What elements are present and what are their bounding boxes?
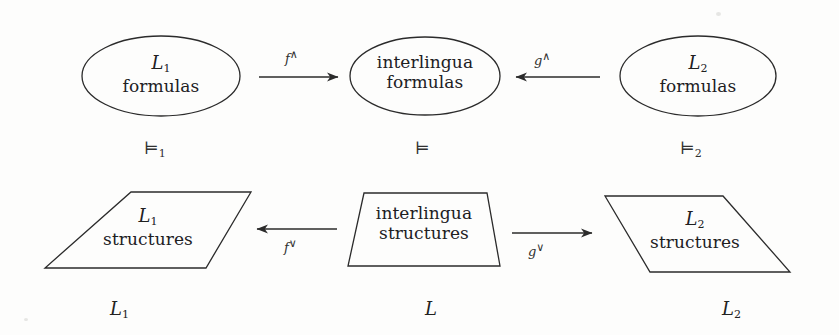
edge-label-g-down: g∨ [528, 241, 544, 259]
edge-label-f-up: f∧ [285, 48, 298, 66]
diagram-canvas [0, 0, 839, 335]
ellipse-l1-formulas [82, 36, 240, 116]
models-2-symbol: ⊨2 [680, 138, 702, 160]
edge-label-f-up-sup: ∧ [290, 48, 298, 61]
models-1-sub: 1 [159, 147, 166, 160]
models-symbol: ⊨ [415, 138, 430, 160]
models-2-sub: 2 [695, 147, 702, 160]
caption-l1-sub: 1 [122, 308, 129, 321]
caption-l2-base: L [722, 298, 734, 319]
caption-l2-sub: 2 [734, 308, 741, 321]
caption-l1-base: L [110, 298, 122, 319]
models-1-glyph: ⊨ [144, 138, 159, 158]
caption-l: L [425, 298, 437, 321]
caption-l2: L2 [722, 298, 741, 321]
edge-label-f-down-sup: ∨ [289, 237, 297, 250]
models-2-glyph: ⊨ [680, 138, 695, 158]
edge-label-g-up: g∧ [534, 50, 550, 68]
scan-speck-2 [24, 318, 28, 321]
interlingua-diagram: L1 formulas interlingua formulas L2 form… [0, 0, 839, 335]
caption-l1: L1 [110, 298, 129, 321]
caption-l-base: L [425, 298, 437, 319]
scan-speck-1 [716, 12, 721, 16]
ellipse-interlingua-formulas [350, 37, 500, 115]
models-1-symbol: ⊨1 [144, 138, 166, 160]
edge-label-g-down-sup: ∨ [536, 241, 544, 254]
ellipse-l2-formulas [620, 36, 776, 116]
trapezoid-interlingua-structures [348, 193, 500, 266]
edge-label-f-down: f∨ [284, 237, 297, 255]
models-glyph: ⊨ [415, 138, 430, 158]
parallelogram-l1-structures [45, 192, 251, 268]
parallelogram-l2-structures [605, 196, 790, 272]
edge-label-g-up-sup: ∧ [542, 50, 550, 63]
